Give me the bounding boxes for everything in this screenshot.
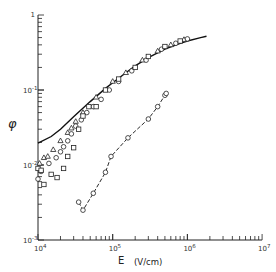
series-triangles [37, 37, 187, 165]
x-axis-title-letter: E [118, 255, 124, 266]
data-point-circle [69, 132, 74, 137]
series-squares [36, 39, 183, 187]
data-point-square [163, 44, 167, 48]
data-point-circle [174, 41, 179, 46]
data-point-square [116, 77, 120, 81]
data-point-circle [91, 191, 96, 196]
data-point-square [87, 104, 91, 108]
tick-label: 10-3 [23, 235, 38, 245]
data-point-circle [155, 104, 160, 109]
data-point-triangle [51, 147, 56, 152]
tick-label: 107 [258, 243, 271, 253]
series-lower-circles [76, 91, 168, 212]
data-point-square [71, 146, 75, 150]
data-point-square [66, 154, 70, 158]
tick-label: 105 [109, 243, 122, 253]
data-point-square [94, 104, 98, 108]
data-point-square [146, 54, 150, 58]
data-point-square [55, 175, 59, 179]
data-point-circle [109, 154, 114, 159]
x-axis-title-unit: (V/cm) [134, 257, 162, 267]
data-point-circle [99, 97, 104, 102]
data-point-circle [65, 139, 70, 144]
data-point-circle [164, 91, 169, 96]
data-point-circle [47, 161, 52, 166]
series-theory-curve [38, 36, 207, 143]
data-point-circle [126, 136, 131, 141]
tick-label: 1 [31, 11, 35, 19]
tick-label: 10-2 [23, 160, 37, 170]
data-point-square [76, 127, 80, 131]
y-axis-title: φ [8, 116, 17, 131]
data-point-square [49, 172, 53, 176]
tick-label: 106 [183, 243, 196, 253]
chart: 10410510610710-310-210-11 φ E (V/cm) [0, 0, 276, 272]
data-point-circle [146, 117, 151, 122]
data-point-square [178, 39, 182, 43]
data-point-square [39, 168, 43, 172]
data-point-square [42, 182, 46, 186]
data-point-circle [76, 200, 81, 205]
data-series [36, 36, 207, 212]
data-point-circle [185, 37, 190, 42]
data-point-circle [81, 208, 86, 213]
data-point-triangle [73, 119, 78, 124]
tick-label: 10-1 [23, 85, 37, 95]
data-point-circle [58, 149, 63, 154]
data-point-circle [54, 155, 59, 160]
data-point-square [133, 65, 137, 69]
data-point-square [61, 166, 65, 170]
series-circles [36, 37, 190, 182]
data-point-circle [103, 170, 108, 175]
data-point-square [81, 114, 85, 118]
tick-labels: 10410510610710-310-210-11 [23, 11, 271, 253]
data-point-circle [61, 144, 66, 149]
data-point-triangle [45, 154, 50, 159]
tick-label: 104 [34, 243, 47, 253]
data-point-circle [36, 177, 41, 182]
data-point-triangle [58, 138, 63, 143]
data-point-triangle [168, 42, 173, 47]
data-point-square [103, 88, 107, 92]
